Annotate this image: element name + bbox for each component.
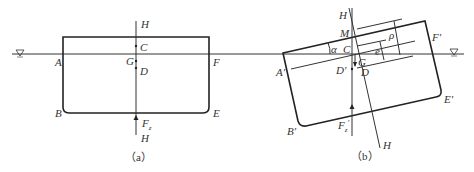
label-C-b: C [343, 43, 351, 55]
alpha-arc [328, 43, 330, 54]
label-C-a: C [140, 41, 148, 53]
label-Fz-prime-b: Fz′ [337, 119, 349, 134]
label-e-b: e [375, 45, 380, 57]
point-C-a [135, 45, 137, 47]
caption-b: （b） [351, 150, 379, 162]
figure-a: H C G D A F B E Fz H （a） [12, 18, 237, 163]
e-dimension [380, 42, 384, 60]
label-D-prime-b: D′ [335, 64, 347, 76]
label-F-a: F [212, 56, 220, 68]
figure-b: H M α C G D′ D A′ F′ B′ E′ Fz′ ρ e H （b） [237, 8, 464, 162]
label-H-bottom-a: H [140, 132, 150, 144]
point-D-a [135, 67, 137, 69]
arrow-Fz-a [134, 115, 139, 120]
label-A-prime-b: A′ [275, 66, 286, 78]
C-offset-line [357, 40, 386, 46]
axis-HH-b [349, 8, 380, 148]
label-M-b: M [339, 27, 350, 39]
caption-a: （a） [125, 151, 152, 163]
label-D-b: D [360, 66, 369, 78]
label-H-top-a: H [140, 18, 150, 30]
point-G-a [135, 60, 137, 62]
label-G-a: G [126, 55, 134, 67]
label-rho-b: ρ [388, 29, 394, 41]
label-alpha-b: α [331, 43, 337, 55]
A-prime-F-prime-line [291, 41, 415, 69]
arrow-G-b [353, 62, 357, 67]
label-A-a: A [54, 56, 62, 68]
arrow-Fz-b [350, 104, 355, 109]
label-Fz-a: Fz [141, 117, 152, 132]
label-E-prime-b: E′ [443, 93, 454, 105]
stability-diagram: H C G D A F B E Fz H （a） [0, 0, 474, 172]
label-E-a: E [212, 107, 220, 119]
point-D-prime [351, 68, 353, 70]
water-symbol-b [450, 49, 458, 56]
label-H-bottom-b: H [382, 139, 392, 151]
label-D-a: D [139, 65, 148, 77]
label-B-prime-b: B′ [287, 125, 297, 137]
label-B-a: B [55, 107, 62, 119]
label-F-prime-b: F′ [431, 31, 442, 43]
label-H-top-b: H [338, 9, 348, 21]
